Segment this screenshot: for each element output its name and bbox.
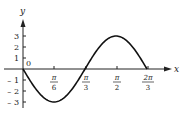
y-tick-neg3: – 3	[7, 98, 19, 107]
x-axis-arrow-icon	[164, 67, 172, 72]
y-tick-neg1: – 1	[7, 76, 19, 85]
x-tick-pi2-num: π	[114, 74, 120, 82]
y-tick-1: 1	[14, 54, 19, 63]
x-tick-2pi3-num: 2π	[142, 74, 152, 82]
x-axis-label: x	[174, 64, 179, 74]
y-tick-2: 2	[14, 43, 19, 52]
x-tick-pi6-den: 6	[52, 84, 57, 92]
x-tick-labels: π 6 π 3 π 2 2π 3	[50, 74, 154, 92]
sine-chart: y x 0 3 2 1 – 1 – 2 – 3 π 6 π 3 π 2 2π	[0, 0, 184, 114]
x-tick-2pi3-den: 3	[146, 84, 150, 92]
y-tick-3: 3	[14, 32, 19, 41]
origin-label: 0	[26, 59, 31, 68]
y-axis-arrow-icon	[21, 19, 26, 27]
x-tick-pi3-den: 3	[84, 84, 88, 92]
x-tick-pi2-den: 2	[115, 84, 119, 92]
x-tick-pi6-num: π	[51, 74, 57, 82]
y-tick-neg2: – 2	[7, 87, 19, 96]
x-tick-pi3-num: π	[83, 74, 89, 82]
y-axis-label: y	[19, 6, 26, 16]
